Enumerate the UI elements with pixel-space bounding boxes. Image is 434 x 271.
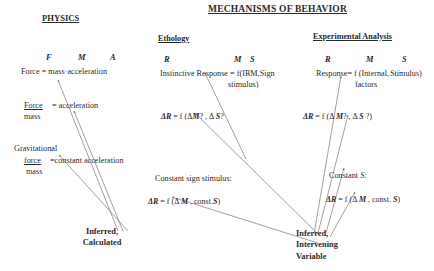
experimental-equation-1-continuation: factors (355, 81, 377, 90)
arrow-physics-eq3 (59, 155, 128, 231)
column-title-ethology: Ethology (158, 35, 189, 44)
experimental-equation-3: ΔR = f (Δ M , const. S) (326, 196, 400, 204)
ethology-var-r: R (164, 56, 170, 65)
physics-equation-3-numerator: force (24, 157, 41, 166)
center-outcome: Inferred, Intervening Variable (296, 228, 388, 262)
center-outcome-line1: Inferred, (296, 229, 328, 238)
physics-equation-2-denominator: mass (24, 113, 40, 122)
ethology-constant-note: Constant sign stimulus: (155, 175, 232, 184)
experimental-var-s: S (402, 56, 407, 65)
center-outcome-line2: Intervening (296, 240, 338, 249)
center-outcome-line3: Variable (296, 252, 326, 261)
physics-var-m: M (78, 54, 85, 63)
physics-equation-3-label: Gravitational (14, 145, 57, 154)
experimental-var-m: M (366, 56, 373, 65)
physics-outcome-line2: Calculated (83, 238, 122, 247)
experimental-var-r: R (325, 56, 331, 65)
experimental-equation-1-stimulus: Stimulus) (390, 70, 422, 79)
arrow-exp-internal-factors (314, 76, 341, 234)
figure-canvas: MECHANISMS OF BEHAVIOR PHYSICS Ethology … (0, 0, 434, 271)
ethology-equation-1-continuation: stimulus) (228, 81, 258, 90)
ethology-equation-3: ΔR = f (Δ M , const.S) (148, 198, 220, 206)
experimental-equation-1: Response= f (Internal, (316, 70, 389, 79)
ethology-equation-2: ΔR = f (ΔM? , Δ S? (161, 113, 224, 121)
experimental-constant-note: Constant S: (329, 172, 367, 181)
physics-equation-1: Force = mass·acceleration (21, 68, 107, 77)
physics-var-f: F (46, 54, 52, 63)
ethology-var-m: M (234, 56, 241, 65)
physics-outcome-line1: Inferred, (86, 227, 118, 236)
ethology-equation-1: Instinctive Response = f(IRM,Sign (160, 70, 275, 79)
column-title-physics: PHYSICS (42, 14, 79, 23)
arrow-physics-eq2 (74, 111, 123, 231)
column-title-experimental-analysis: Experimental Analysis (313, 33, 392, 42)
experimental-equation-2: ΔR = f (Δ M? , Δ S ?) (303, 113, 372, 121)
physics-equation-2-rhs: = acceleration (52, 102, 98, 111)
physics-equation-3-denominator: mass (26, 168, 42, 177)
main-title: MECHANISMS OF BEHAVIOR (208, 5, 347, 15)
physics-var-a: A (110, 54, 116, 63)
physics-equation-3-rhs: =constant acceleration (50, 157, 124, 166)
physics-outcome: Inferred, Calculated (62, 226, 142, 249)
physics-equation-2-numerator: Force (24, 102, 43, 111)
ethology-var-s: S (250, 56, 255, 65)
